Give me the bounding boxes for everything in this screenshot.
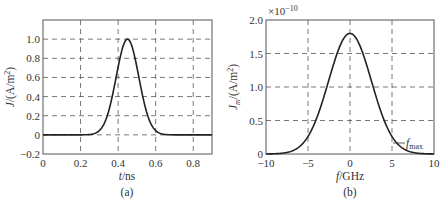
panel-label: (a)	[121, 186, 134, 199]
y-tick-label: 0	[35, 129, 41, 141]
y-tick-label: 0	[258, 148, 264, 160]
y-tick-label: 0.2	[26, 110, 40, 122]
y-multiplier-label: ×10−10	[268, 4, 298, 17]
panel-label: (b)	[343, 186, 357, 199]
y-tick-label: 0.6	[26, 71, 40, 83]
data-series-line	[43, 39, 212, 135]
y-tick-label: 1.0	[26, 33, 40, 45]
x-tick-label: 0.2	[74, 157, 88, 169]
tick-labels: 00.20.40.60.8−0.200.20.40.60.81.0	[20, 33, 201, 169]
x-axis-label: f/GHz	[336, 170, 364, 183]
plot-area-frame	[43, 20, 212, 154]
x-tick-label: −5	[302, 157, 314, 169]
y-axis-label: Jm/(A/m2)	[226, 64, 242, 110]
x-tick-label: 0.6	[149, 157, 163, 169]
figure: 00.20.40.60.8−0.200.20.40.60.81.0 J/(A/m…	[0, 0, 446, 202]
x-tick-label: 0.8	[186, 157, 200, 169]
x-axis-label: t/ns	[119, 170, 136, 182]
grid-lines	[266, 20, 434, 154]
x-tick-label: 0	[40, 157, 46, 169]
chart-panel-a: 00.20.40.60.8−0.200.20.40.60.81.0 J/(A/m…	[3, 20, 212, 199]
y-tick-label: −0.2	[20, 148, 40, 160]
x-tick-label: 10	[429, 157, 441, 169]
fmax-annotation: fmax	[406, 137, 423, 151]
x-tick-label: 0.4	[111, 157, 125, 169]
y-tick-label: 0.4	[26, 91, 40, 103]
y-axis-label: J/(A/m2)	[3, 67, 17, 108]
y-tick-label: 0.8	[26, 52, 40, 64]
x-tick-label: 0	[347, 157, 353, 169]
y-tick-label: 1.0	[249, 81, 263, 93]
x-tick-label: 5	[389, 157, 395, 169]
y-tick-label: 0.5	[249, 115, 263, 127]
y-tick-label: 2.0	[249, 14, 263, 26]
grid-lines	[43, 20, 212, 154]
chart-panel-b: −10−5051000.51.01.52.0 ×10−10 Jm/(A/m2) …	[226, 4, 440, 199]
y-tick-label: 1.5	[249, 48, 263, 60]
